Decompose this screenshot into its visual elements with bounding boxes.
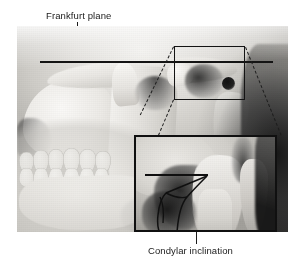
region-of-interest-box — [174, 46, 245, 100]
anatomy-figure: Frankfurt plane — [0, 0, 299, 262]
condylar-inclination-angle-line — [166, 176, 207, 193]
magnified-inset-panel — [134, 135, 277, 232]
condylar-inclination-label: Condylar inclination — [148, 245, 233, 256]
frankfurt-plane-label: Frankfurt plane — [46, 10, 111, 21]
condylar-inclination-leader-line — [196, 232, 197, 244]
fossa-contour-trace — [158, 193, 166, 232]
joint-space-trace — [166, 193, 187, 198]
inset-inclination-overlay — [136, 137, 277, 232]
condyle-contour-trace — [177, 176, 207, 232]
